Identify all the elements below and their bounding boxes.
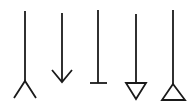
- triangle-down-connector: [126, 14, 146, 99]
- crows-foot-connector: [14, 11, 36, 98]
- t-bar-connector: [90, 10, 107, 83]
- open-arrow-connector: [52, 13, 72, 82]
- arrowhead-diagram: [0, 0, 192, 106]
- triangle-up-connector: [162, 10, 185, 100]
